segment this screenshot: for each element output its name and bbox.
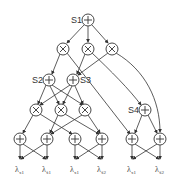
leaf-label-2: λx̄1	[42, 165, 51, 175]
label-s2: S2	[32, 75, 43, 85]
label-s3: S3	[80, 75, 91, 85]
diagram-svg: S1 S2 S3 S4 λx1 λx̄1 λx1 λx̄2 λx1 λx̄2	[0, 0, 177, 186]
sum-node-b4	[96, 133, 108, 145]
sum-node-s2	[43, 74, 55, 86]
sum-node-s3	[67, 74, 79, 86]
leaf-label-6: λx̄2	[155, 165, 164, 175]
sum-node-b6	[154, 133, 166, 145]
product-node-p5	[55, 104, 67, 116]
product-node-p6	[79, 104, 91, 116]
spn-diagram: S1 S2 S3 S4 λx1 λx̄1 λx1 λx̄2 λx1 λx̄2	[0, 0, 177, 186]
sum-node-s4	[139, 104, 151, 116]
leaf-label-3: λx1	[70, 165, 79, 175]
sum-node-b5	[126, 133, 138, 145]
leaf-label-5: λx1	[127, 165, 136, 175]
sum-node-b3	[69, 133, 81, 145]
product-node-p3	[106, 43, 118, 55]
leaf-label-1: λx1	[15, 165, 24, 175]
sum-node-b2	[41, 133, 53, 145]
leaf-label-4: λx̄2	[97, 165, 106, 175]
sum-node-s1	[82, 14, 94, 26]
label-s4: S4	[128, 105, 139, 115]
sum-node-b1	[14, 133, 26, 145]
label-s1: S1	[71, 15, 82, 25]
product-node-p4	[30, 104, 42, 116]
product-node-p2	[82, 43, 94, 55]
product-node-p1	[57, 43, 69, 55]
